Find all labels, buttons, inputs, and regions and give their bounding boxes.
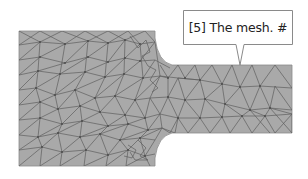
callout-label: [5] The mesh. # (183, 10, 293, 44)
mesh-domain (19, 31, 292, 166)
mesh-fill (19, 31, 292, 166)
mesh-figure: [5] The mesh. # (0, 0, 308, 179)
